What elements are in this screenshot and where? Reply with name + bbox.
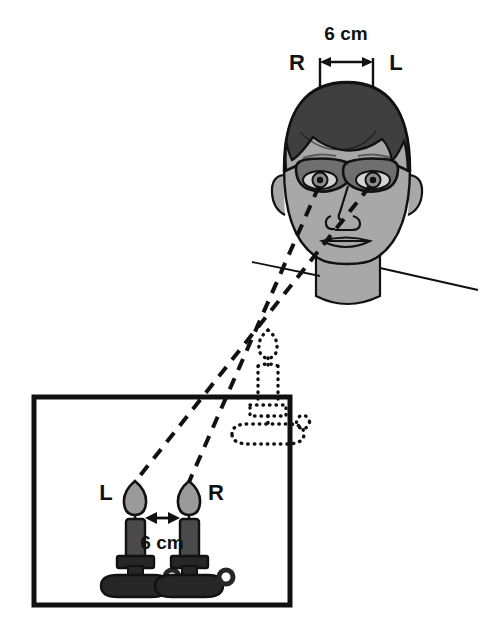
candle-distance-arrow — [145, 512, 180, 524]
right-candle-base — [155, 575, 223, 597]
phantom-flame — [259, 330, 277, 358]
candle-distance-label: 6 cm — [140, 532, 183, 553]
candle-right-label: R — [208, 480, 224, 505]
candles-group: L R 6 cm — [99, 480, 233, 597]
top-distance-label: 6 cm — [324, 23, 367, 44]
phantom-handle-ring — [297, 416, 310, 429]
left-ear — [272, 175, 285, 215]
left-candle-flame — [124, 481, 146, 515]
scene-frame — [34, 397, 290, 605]
top-left-label: L — [389, 50, 402, 75]
top-distance-arrow — [320, 57, 373, 67]
right-candle-flame — [178, 481, 200, 515]
fused-phantom-candle — [232, 330, 310, 444]
shoulder-line — [380, 268, 478, 290]
top-right-label: R — [289, 50, 305, 75]
left-eye-pupil — [370, 177, 376, 183]
right-eye-pupil — [317, 177, 323, 183]
figure-canvas: R L 6 cm — [0, 0, 482, 639]
candle-left-label: L — [99, 480, 112, 505]
diagram-svg: R L 6 cm — [0, 0, 482, 639]
phantom-base — [232, 416, 304, 444]
sight-line-right-eye-to-right-candle — [189, 186, 319, 482]
right-candle-handle-ring — [219, 570, 233, 584]
